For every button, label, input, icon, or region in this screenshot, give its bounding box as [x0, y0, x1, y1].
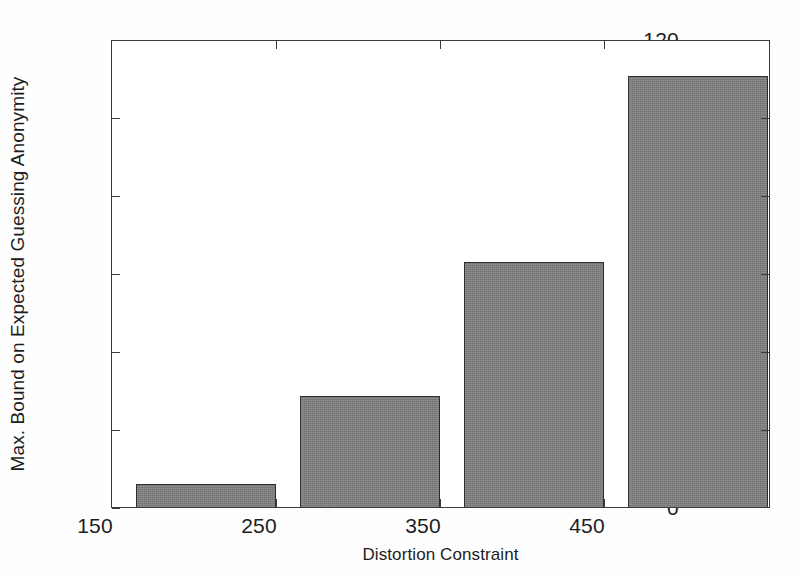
y-tick-mark-right-100 — [761, 118, 769, 119]
x-tick-mark-3 — [604, 499, 605, 507]
figure-canvas: Max. Bound on Expected Guessing Anonymit… — [0, 0, 799, 580]
x-tick-mark-top-2 — [440, 41, 441, 49]
y-tick-mark-right-40 — [761, 352, 769, 353]
y-axis-title: Max. Bound on Expected Guessing Anonymit… — [7, 77, 29, 472]
bar-350 — [464, 262, 604, 507]
x-tick-label-250: 250 — [214, 514, 304, 538]
x-tick-label-150: 150 — [50, 514, 140, 538]
y-tick-mark-40 — [112, 352, 120, 353]
bar-250 — [300, 396, 440, 507]
y-tick-mark-20 — [112, 430, 120, 431]
y-tick-mark-60 — [112, 274, 120, 275]
x-tick-mark-2 — [440, 499, 441, 507]
bar-450 — [628, 76, 768, 507]
bar-150 — [136, 484, 276, 507]
x-tick-label-350: 350 — [378, 514, 468, 538]
y-tick-mark-right-20 — [761, 430, 769, 431]
y-tick-mark-right-60 — [761, 274, 769, 275]
bars-layer — [112, 41, 769, 507]
x-axis-title: Distortion Constraint — [111, 545, 770, 565]
x-tick-mark-top-1 — [276, 41, 277, 49]
x-tick-mark-top-3 — [604, 41, 605, 49]
y-tick-mark-right-80 — [761, 196, 769, 197]
plot-area — [111, 40, 770, 508]
x-tick-label-450: 450 — [542, 514, 632, 538]
y-tick-mark-0 — [112, 508, 120, 509]
x-tick-mark-1 — [276, 499, 277, 507]
y-tick-mark-80 — [112, 196, 120, 197]
y-tick-mark-100 — [112, 118, 120, 119]
